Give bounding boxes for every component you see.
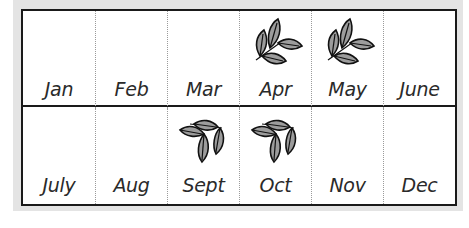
month-label: Mar — [168, 78, 239, 100]
leaf-sprig-falling-icon — [176, 114, 232, 166]
month-label: Apr — [240, 78, 311, 100]
month-label: Feb — [96, 78, 167, 100]
month-label: Oct — [240, 174, 311, 196]
month-cell-dec: Dec — [383, 108, 455, 205]
leaf-sprig-falling-icon — [248, 114, 304, 166]
month-cell-jan: Jan — [23, 11, 95, 108]
month-cell-feb: Feb — [95, 11, 167, 108]
month-cell-apr: Apr — [239, 11, 311, 108]
leaf-sprig-icon — [320, 16, 376, 68]
leaf-sprig-icon — [248, 16, 304, 68]
month-label: Jan — [23, 78, 95, 100]
month-label: June — [384, 78, 455, 100]
month-cell-sept: Sept — [167, 108, 239, 205]
month-calendar-grid: Jan Feb Mar Apr — [21, 9, 457, 206]
month-label: July — [23, 174, 95, 196]
month-cell-mar: Mar — [167, 11, 239, 108]
month-cell-may: May — [311, 11, 383, 108]
month-label: Nov — [312, 174, 383, 196]
month-label: Aug — [96, 174, 167, 196]
month-cell-june: June — [383, 11, 455, 108]
month-cell-oct: Oct — [239, 108, 311, 205]
month-cell-nov: Nov — [311, 108, 383, 205]
month-label: May — [312, 78, 383, 100]
month-label: Dec — [384, 174, 455, 196]
month-label: Sept — [168, 174, 239, 196]
month-cell-aug: Aug — [95, 108, 167, 205]
month-cell-july: July — [23, 108, 95, 205]
